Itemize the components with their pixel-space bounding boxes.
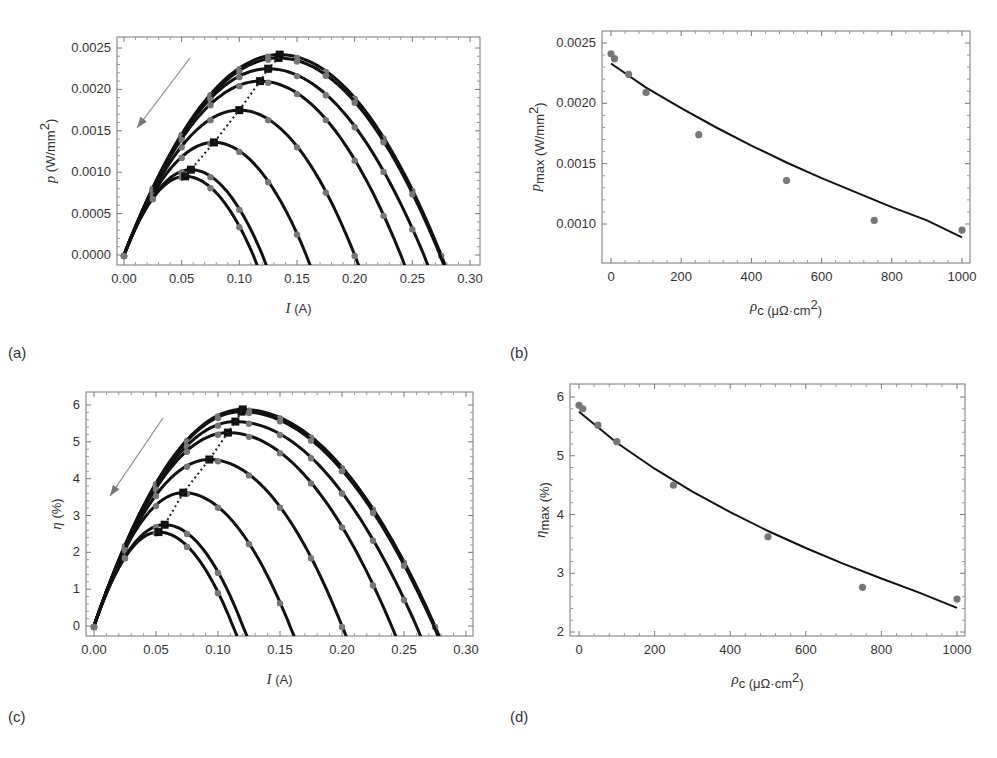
data-point (294, 91, 300, 97)
x-tick-label: 400 (719, 642, 741, 657)
y-axis-label: η (%) (48, 498, 64, 529)
x-tick-label: 0 (575, 642, 582, 657)
x-axis-label: I (A) (266, 671, 293, 687)
x-tick-label: 0.15 (267, 642, 292, 657)
y-tick-label: 3 (73, 508, 80, 523)
data-point (215, 590, 221, 596)
data-point (958, 226, 965, 233)
x-axis-label: ρc (μΩ·cm2) (749, 297, 822, 318)
y-tick-label: 0.0015 (71, 123, 111, 138)
data-point (409, 191, 415, 197)
fit-curve (611, 64, 962, 238)
panel-label-d: (d) (510, 708, 528, 725)
y-tick-label: 1 (73, 581, 80, 596)
data-point (277, 418, 283, 424)
y-axis-label: pmax (W/mm2) (526, 102, 547, 192)
data-point (236, 74, 242, 80)
data-point (215, 422, 221, 428)
data-point (246, 410, 252, 416)
data-point (277, 505, 283, 511)
data-point (783, 177, 790, 184)
y-tick-label: 0.0020 (556, 95, 596, 110)
fitted-curve (124, 176, 258, 267)
data-point (370, 510, 376, 516)
data-point (207, 185, 213, 191)
x-tick-label: 0.15 (284, 271, 309, 286)
data-point (339, 468, 345, 474)
data-point (91, 624, 97, 630)
data-point (265, 79, 271, 85)
x-tick-label: 400 (741, 269, 763, 284)
data-point (121, 253, 127, 259)
data-point (308, 555, 314, 561)
y-tick-label: 0.0025 (556, 35, 596, 50)
data-point (351, 157, 357, 163)
data-point (150, 196, 156, 202)
y-axis-label: ηmax (%) (532, 482, 552, 538)
data-point (401, 563, 407, 569)
x-tick-label: 1000 (948, 269, 977, 284)
data-point (215, 570, 221, 576)
data-point (695, 131, 702, 138)
data-point (764, 533, 771, 540)
x-tick-label: 0.25 (400, 271, 425, 286)
y-tick-label: 4 (73, 471, 80, 486)
data-point (643, 89, 650, 96)
data-point (953, 596, 960, 603)
data-point (277, 450, 283, 456)
x-tick-label: 0 (607, 269, 614, 284)
y-tick-label: 0.0000 (71, 247, 111, 262)
data-point (294, 144, 300, 150)
data-point (184, 448, 190, 454)
data-point (215, 431, 221, 437)
data-point (207, 117, 213, 123)
x-tick-label: 0.00 (111, 271, 136, 286)
x-tick-label: 0.20 (342, 271, 367, 286)
fitted-curve (94, 493, 295, 638)
data-point (277, 600, 283, 606)
x-tick-label: 0.25 (391, 642, 416, 657)
x-tick-label: 600 (795, 642, 817, 657)
x-tick-label: 800 (881, 269, 903, 284)
data-point (178, 144, 184, 150)
fitted-curve (94, 412, 439, 638)
x-axis-label: I (A) (285, 300, 312, 316)
data-point (246, 541, 252, 547)
data-point (871, 217, 878, 224)
x-tick-label: 200 (644, 642, 666, 657)
y-tick-label: 4 (557, 507, 564, 522)
fitted-curve (94, 525, 248, 638)
data-point (122, 555, 128, 561)
data-point (308, 480, 314, 486)
data-point (153, 503, 159, 509)
x-tick-label: 0.10 (227, 271, 252, 286)
arrow-icon (137, 58, 190, 128)
x-tick-label: 0.05 (169, 271, 194, 286)
data-point (215, 415, 221, 421)
x-tick-label: 0.05 (143, 642, 168, 657)
x-axis-label: ρc (μΩ·cm2) (730, 670, 803, 691)
y-tick-label: 0.0005 (71, 206, 111, 221)
data-point (236, 83, 242, 89)
data-point (613, 438, 620, 445)
data-point (323, 73, 329, 79)
panel-label-a: (a) (8, 344, 26, 361)
data-point (323, 189, 329, 195)
y-tick-label: 5 (73, 434, 80, 449)
fitted-curve (124, 170, 267, 267)
data-point (370, 582, 376, 588)
data-point (184, 544, 190, 550)
data-point (294, 73, 300, 79)
data-point (277, 432, 283, 438)
data-point (236, 224, 242, 230)
x-tick-label: 200 (670, 269, 692, 284)
data-point (308, 455, 314, 461)
data-point (265, 179, 271, 185)
y-tick-label: 2 (557, 624, 564, 639)
data-point (579, 405, 586, 412)
data-point (184, 464, 190, 470)
data-point (265, 57, 271, 63)
x-tick-label: 0.10 (205, 642, 230, 657)
figure-canvas: 0.000.050.100.150.200.250.300.00000.0005… (0, 0, 997, 758)
data-point (308, 437, 314, 443)
